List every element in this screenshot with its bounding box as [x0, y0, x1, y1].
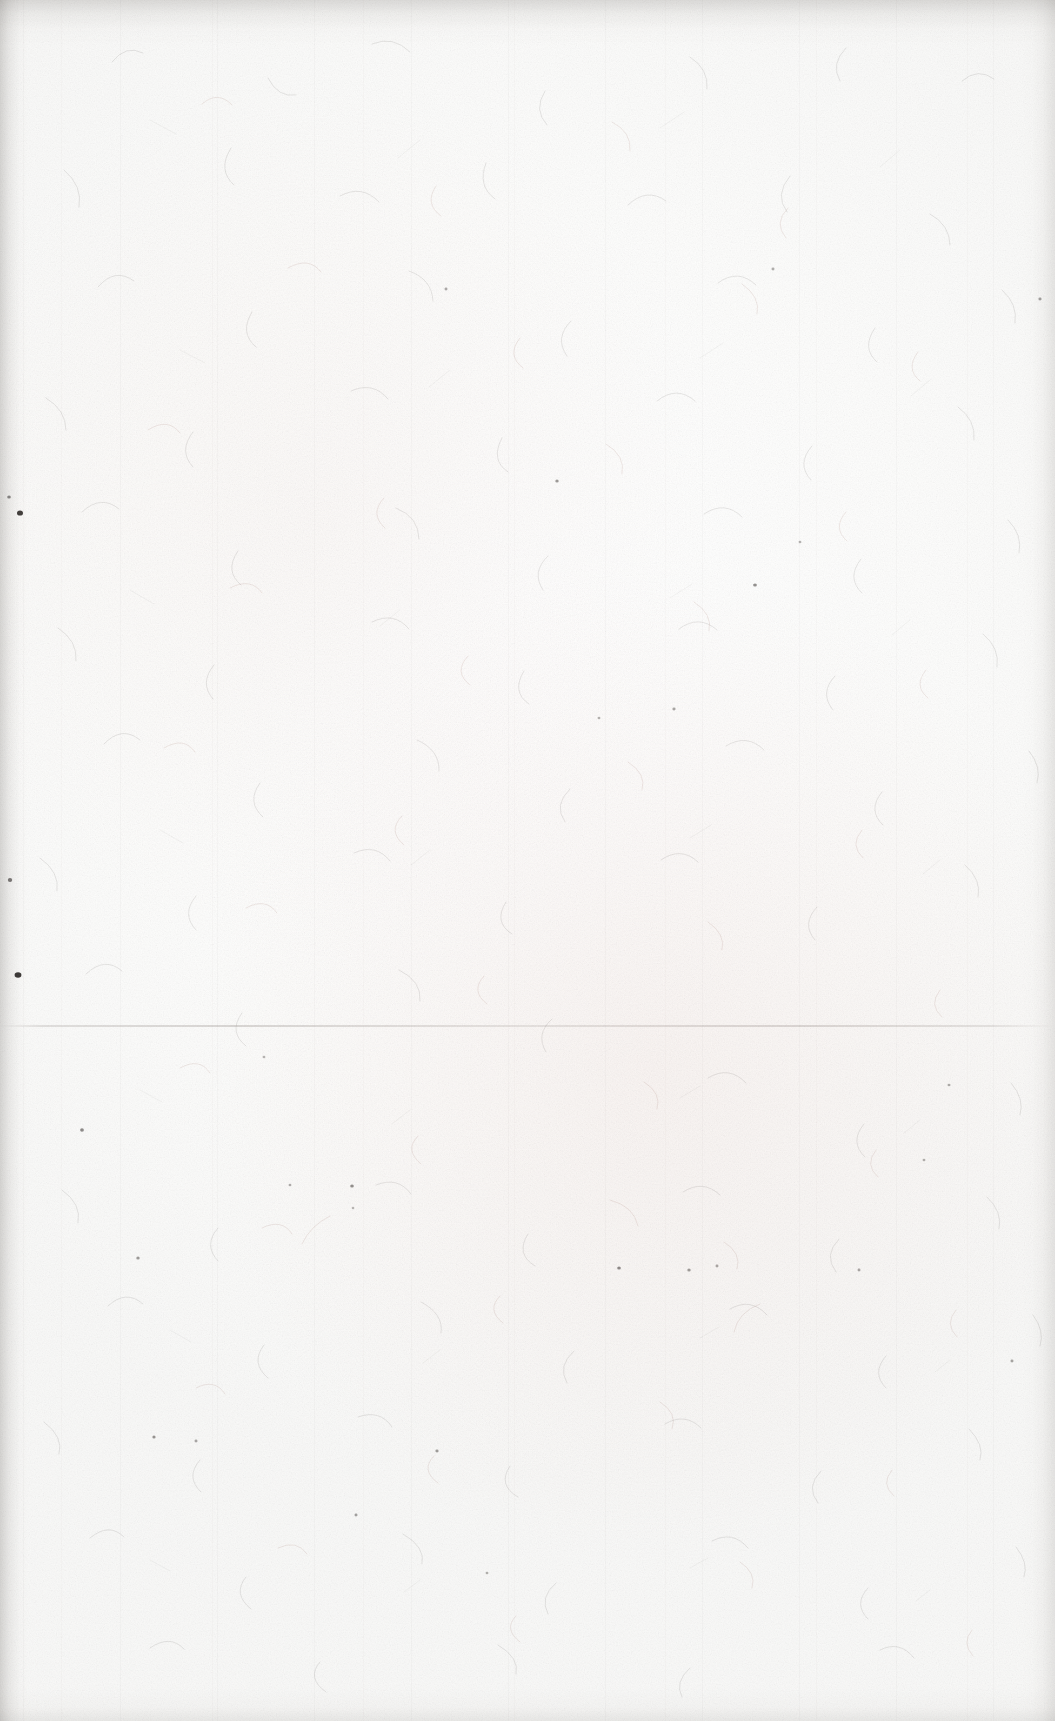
scanner-streaks [0, 0, 1055, 1721]
bottom-edge-shadow [0, 1687, 1055, 1721]
scan-seam-line [0, 1025, 1055, 1027]
scanned-page [0, 0, 1055, 1721]
right-edge-shadow [1021, 0, 1055, 1721]
left-edge-shadow [0, 0, 30, 1721]
top-edge-shadow [0, 0, 1055, 46]
